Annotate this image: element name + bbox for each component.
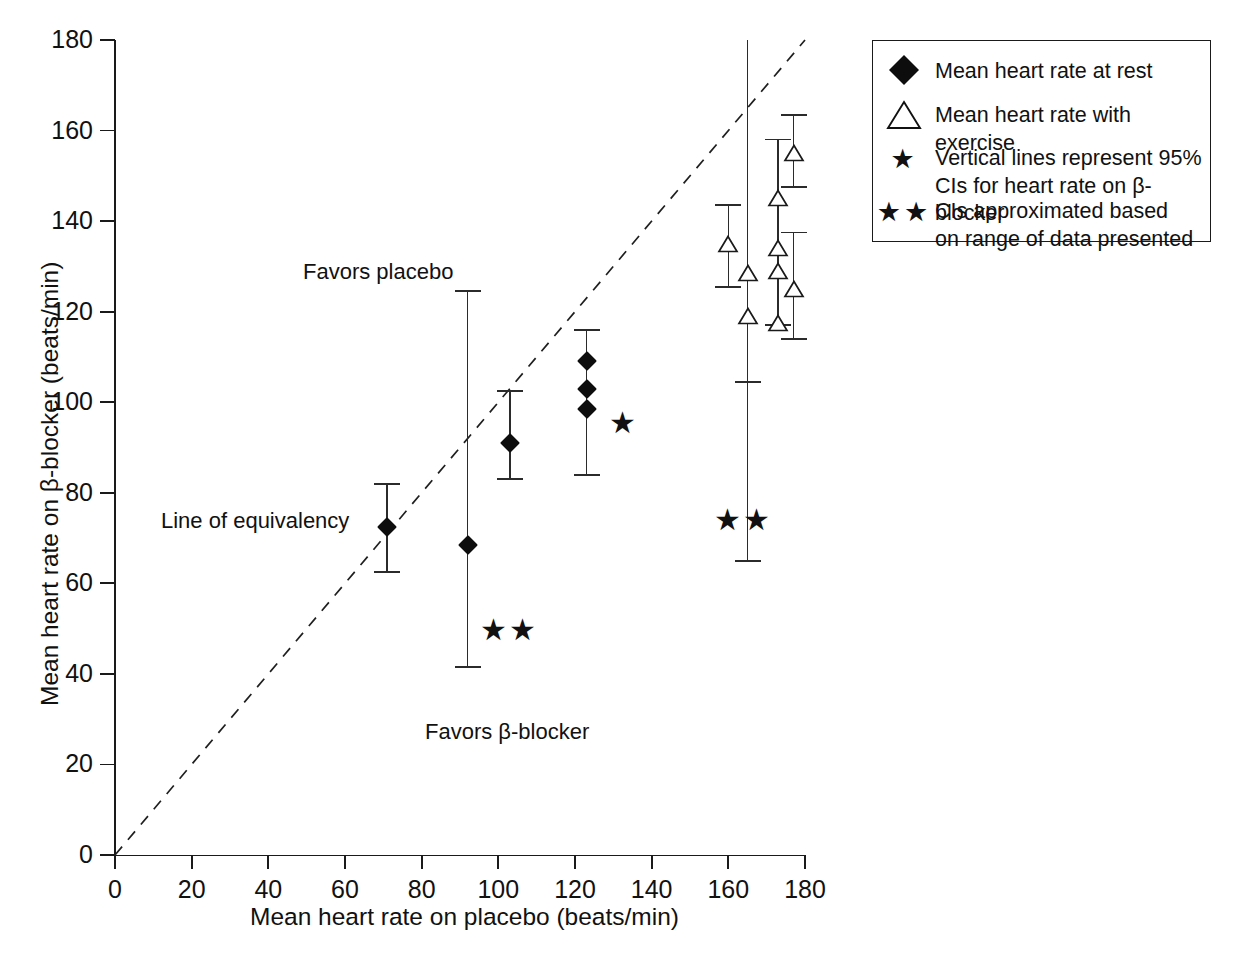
- annotation-star-single: ★: [609, 408, 638, 438]
- open-triangle-icon: [873, 99, 935, 131]
- annotation-favors-bblocker: Favors β-blocker: [425, 719, 589, 745]
- star-glyph: ★: [890, 145, 917, 172]
- data-point-exercise: [737, 307, 759, 326]
- annotation-line-of-equivalency: Line of equivalency: [161, 508, 349, 534]
- data-point-rest: [377, 517, 397, 537]
- legend-item-ci-approx: ★★ CIs approximated based on range of da…: [873, 198, 1212, 253]
- error-bar-cap: [715, 286, 741, 288]
- error-bar-cap: [781, 232, 807, 234]
- error-bar-cap: [735, 560, 761, 562]
- chart-legend: Mean heart rate at rest Mean heart rate …: [872, 40, 1211, 242]
- double-star-icon: ★★: [873, 198, 935, 225]
- data-point-exercise: [717, 234, 739, 253]
- annotation-star-double-right: ★★: [714, 505, 772, 535]
- data-point-rest: [500, 433, 520, 453]
- data-point-rest: [577, 399, 597, 419]
- data-point-rest: [577, 379, 597, 399]
- data-point-exercise: [783, 144, 805, 163]
- error-bar-cap: [715, 204, 741, 206]
- error-bar-cap: [781, 186, 807, 188]
- error-bar-cap: [574, 474, 600, 476]
- error-bar-cap: [497, 478, 523, 480]
- annotation-favors-placebo: Favors placebo: [303, 259, 453, 285]
- error-bar-cap: [781, 114, 807, 116]
- error-bar: [777, 140, 779, 326]
- error-bar-cap: [455, 666, 481, 668]
- double-star-glyph: ★★: [877, 198, 931, 225]
- error-bar-cap: [374, 483, 400, 485]
- legend-label-rest: Mean heart rate at rest: [935, 53, 1153, 86]
- error-bar-cap: [497, 390, 523, 392]
- error-bar-cap: [574, 329, 600, 331]
- error-bar-cap: [455, 290, 481, 292]
- error-bar-cap: [781, 338, 807, 340]
- legend-item-rest: Mean heart rate at rest: [873, 53, 1212, 87]
- data-point-exercise: [783, 280, 805, 299]
- data-point-rest: [458, 535, 478, 555]
- data-point-exercise: [767, 313, 789, 332]
- data-point-rest: [577, 352, 597, 372]
- error-bar-cap: [735, 381, 761, 383]
- data-point-exercise: [767, 239, 789, 258]
- chart-figure: 020406080100120140160180 020406080100120…: [0, 0, 1236, 954]
- legend-label-ci-approx: CIs approximated based on range of data …: [935, 198, 1193, 253]
- data-point-exercise: [737, 264, 759, 283]
- star-icon: ★: [873, 145, 935, 172]
- error-bar-cap: [374, 571, 400, 573]
- data-point-exercise: [767, 261, 789, 280]
- filled-diamond-icon: [873, 53, 935, 87]
- error-bar: [747, 40, 749, 382]
- error-bar: [467, 291, 469, 667]
- error-bar-cap: [765, 139, 791, 141]
- data-point-exercise: [767, 189, 789, 208]
- annotation-star-double-left: ★★: [480, 615, 538, 645]
